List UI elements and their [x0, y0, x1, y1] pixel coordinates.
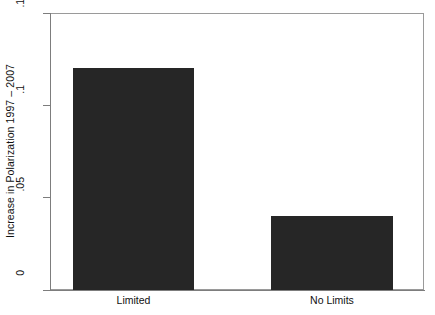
- y-tick-label-3: .15: [14, 0, 26, 33]
- x-label-no-limits: No Limits: [271, 294, 393, 306]
- y-axis-line: [50, 13, 51, 291]
- y-axis-title: Increase in Polarization 1997 – 2007: [2, 6, 18, 296]
- y-tick-mark-0: [43, 290, 50, 291]
- y-tick-label-1: .05: [14, 177, 26, 217]
- y-tick-mark-2: [43, 105, 50, 106]
- y-tick-label-0: 0: [14, 270, 26, 310]
- x-axis-line: [50, 290, 425, 291]
- x-label-limited: Limited: [73, 294, 194, 306]
- bar-limited: [73, 68, 194, 290]
- bar-chart: Increase in Polarization 1997 – 2007 0 .…: [0, 0, 435, 315]
- y-tick-mark-1: [43, 197, 50, 198]
- y-tick-label-2: .1: [14, 85, 26, 125]
- y-tick-mark-3: [43, 13, 50, 14]
- bar-no-limits: [271, 216, 393, 290]
